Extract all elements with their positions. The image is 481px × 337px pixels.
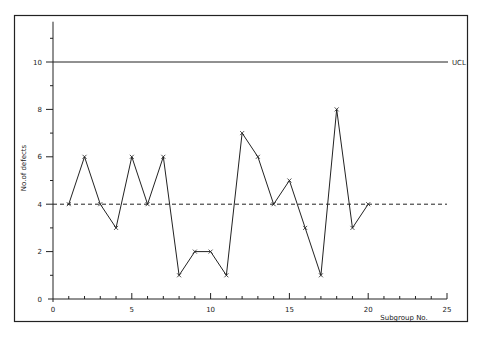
y-tick-label: 6 (38, 153, 43, 161)
x-tick-label: 0 (51, 306, 55, 314)
y-tick-label: 2 (38, 248, 42, 256)
series-line (69, 109, 368, 275)
x-tick-label: 20 (364, 306, 373, 314)
chart-frame (15, 16, 468, 322)
y-tick-label: 8 (38, 106, 42, 114)
y-tick-label: 10 (33, 59, 42, 67)
data-series (67, 107, 370, 277)
control-chart: 02468100510152025 UCL Subgroup No. No.of… (0, 0, 481, 337)
ucl-label: UCL (452, 59, 466, 67)
x-tick-label: 15 (285, 306, 294, 314)
axes: 02468100510152025 (33, 22, 451, 314)
x-axis-label: Subgroup No. (380, 314, 428, 322)
reference-lines (53, 62, 448, 204)
x-tick-label: 5 (130, 306, 134, 314)
x-tick-label: 10 (206, 306, 215, 314)
y-axis-label: No.of defects (20, 144, 28, 191)
y-tick-label: 0 (38, 296, 42, 304)
y-tick-label: 4 (38, 201, 43, 209)
x-tick-label: 25 (443, 306, 452, 314)
